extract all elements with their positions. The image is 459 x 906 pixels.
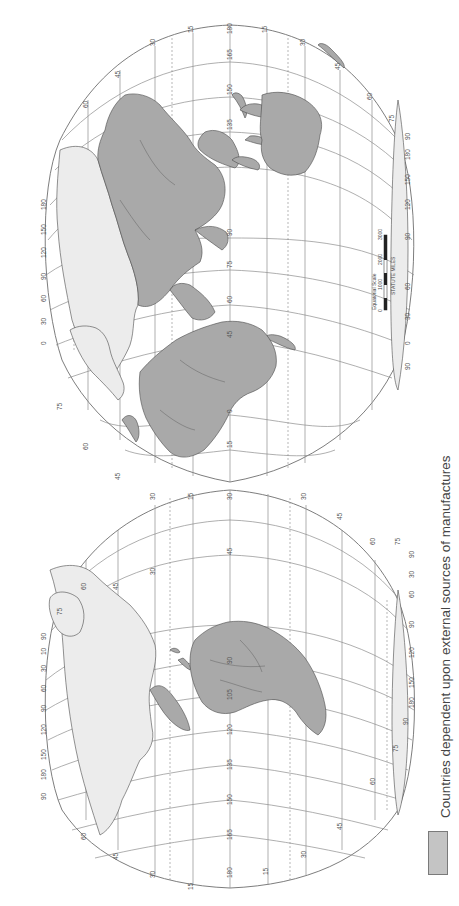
map-legend: Countries dependent upon external source… — [427, 478, 457, 878]
svg-text:0: 0 — [404, 341, 411, 345]
region-iberia — [122, 416, 139, 443]
svg-text:75: 75 — [394, 537, 401, 545]
svg-text:60: 60 — [80, 832, 87, 840]
region-australia — [260, 92, 321, 175]
svg-text:30: 30 — [149, 38, 156, 46]
svg-text:60: 60 — [404, 282, 411, 290]
svg-text:45: 45 — [336, 512, 343, 520]
svg-text:90: 90 — [408, 620, 415, 628]
region-philippines — [232, 93, 247, 118]
svg-text:180: 180 — [226, 867, 233, 878]
svg-text:150: 150 — [40, 224, 47, 235]
svg-text:165: 165 — [226, 49, 233, 60]
svg-text:60: 60 — [40, 684, 47, 692]
svg-text:30: 30 — [404, 312, 411, 320]
svg-text:75: 75 — [226, 260, 233, 268]
legend-label-dependent: Countries dependent upon external source… — [438, 456, 453, 818]
svg-text:75: 75 — [388, 114, 395, 122]
svg-text:30: 30 — [300, 850, 307, 858]
svg-text:120: 120 — [404, 199, 411, 210]
svg-text:90: 90 — [408, 550, 415, 558]
svg-text:180: 180 — [40, 199, 47, 210]
svg-text:60: 60 — [369, 777, 376, 785]
svg-text:45: 45 — [336, 822, 343, 830]
svg-text:45: 45 — [112, 582, 119, 590]
svg-text:60: 60 — [80, 582, 87, 590]
svg-text:15: 15 — [187, 882, 194, 890]
svg-text:45: 45 — [226, 547, 233, 555]
svg-text:90: 90 — [40, 272, 47, 280]
svg-text:120: 120 — [40, 724, 47, 735]
svg-text:180: 180 — [408, 697, 415, 708]
svg-text:90: 90 — [402, 717, 409, 725]
svg-text:105: 105 — [226, 689, 233, 700]
svg-text:45: 45 — [226, 330, 233, 338]
svg-text:120: 120 — [408, 647, 415, 658]
svg-text:90: 90 — [226, 656, 233, 664]
svg-text:165: 165 — [226, 829, 233, 840]
svg-text:15: 15 — [262, 867, 269, 875]
svg-text:60: 60 — [408, 590, 415, 598]
svg-text:30: 30 — [226, 492, 233, 500]
svg-text:90: 90 — [404, 132, 411, 140]
svg-text:3000: 3000 — [377, 229, 383, 240]
svg-text:Equatorial Scale: Equatorial Scale — [371, 273, 377, 310]
region-africa — [139, 321, 276, 457]
svg-text:10: 10 — [40, 647, 47, 655]
region-greenland — [49, 592, 84, 636]
svg-text:75: 75 — [56, 402, 63, 410]
svg-text:90: 90 — [40, 704, 47, 712]
region-south-america — [190, 621, 326, 735]
svg-text:30: 30 — [300, 492, 307, 500]
svg-text:90: 90 — [40, 632, 47, 640]
svg-text:150: 150 — [40, 749, 47, 760]
svg-text:180: 180 — [40, 769, 47, 780]
svg-text:120: 120 — [40, 247, 47, 258]
region-arabia — [170, 283, 215, 320]
svg-text:150: 150 — [226, 794, 233, 805]
svg-text:180: 180 — [226, 23, 233, 34]
svg-text:15: 15 — [261, 25, 268, 33]
svg-text:120: 120 — [226, 724, 233, 735]
svg-text:150: 150 — [408, 677, 415, 688]
svg-text:30: 30 — [149, 567, 156, 575]
svg-text:60: 60 — [40, 294, 47, 302]
svg-text:30: 30 — [40, 317, 47, 325]
svg-text:45: 45 — [114, 472, 121, 480]
svg-text:1000: 1000 — [377, 279, 383, 290]
svg-text:60: 60 — [226, 295, 233, 303]
svg-text:0: 0 — [40, 341, 47, 345]
svg-text:90: 90 — [40, 792, 47, 800]
svg-text:30: 30 — [149, 870, 156, 878]
svg-text:60: 60 — [82, 100, 89, 108]
svg-text:45: 45 — [334, 62, 341, 70]
svg-text:45: 45 — [112, 852, 119, 860]
svg-text:2000: 2000 — [377, 254, 383, 265]
svg-text:45: 45 — [114, 70, 121, 78]
svg-text:15: 15 — [187, 25, 194, 33]
region-antarctica-east — [391, 100, 408, 390]
svg-text:60: 60 — [366, 92, 373, 100]
region-caribbean — [170, 648, 191, 670]
svg-text:90: 90 — [404, 362, 411, 370]
svg-text:150: 150 — [404, 174, 411, 185]
svg-text:135: 135 — [226, 759, 233, 770]
svg-text:150: 150 — [226, 84, 233, 95]
svg-text:180: 180 — [404, 149, 411, 160]
svg-text:30: 30 — [299, 38, 306, 46]
svg-text:75: 75 — [392, 744, 399, 752]
svg-text:135: 135 — [226, 119, 233, 130]
svg-text:30: 30 — [149, 492, 156, 500]
svg-text:0: 0 — [377, 309, 383, 312]
svg-text:90: 90 — [226, 228, 233, 236]
svg-text:60: 60 — [82, 442, 89, 450]
svg-text:0: 0 — [226, 409, 233, 413]
svg-text:30: 30 — [408, 570, 415, 578]
world-map: 30 45 60 15 180 165 150 135 90 75 60 45 … — [0, 0, 459, 906]
svg-text:15: 15 — [226, 440, 233, 448]
svg-text:30: 30 — [40, 664, 47, 672]
svg-text:60: 60 — [369, 537, 376, 545]
legend-swatch-dependent — [428, 831, 448, 875]
svg-text:75: 75 — [56, 607, 63, 615]
svg-text:STATUTE MILES: STATUTE MILES — [390, 256, 396, 295]
